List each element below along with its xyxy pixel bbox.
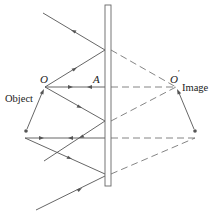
image-base-dot	[193, 129, 197, 133]
ray-o-down-incident	[45, 87, 105, 121]
label-o-prime-mark: ′	[178, 69, 180, 78]
ray-diagram: O A O ′ Object Image	[0, 0, 212, 212]
label-a: A	[92, 73, 100, 85]
label-object: Object	[5, 93, 33, 104]
virtual-ray-bottom	[111, 138, 195, 174]
virtual-ray-top	[111, 50, 176, 87]
arrow-up-icon	[177, 89, 181, 95]
arrow-icon	[72, 68, 78, 72]
label-o-prime: O	[170, 73, 178, 85]
diagram-svg: O A O ′ Object Image	[0, 0, 212, 212]
arrow-icon	[68, 85, 73, 89]
arrow-icon	[68, 136, 73, 140]
label-o: O	[40, 73, 48, 85]
image-arrow	[177, 89, 197, 133]
ray-o-down-reflected	[44, 121, 105, 161]
plane-mirror	[105, 5, 111, 186]
arrow-up-icon	[40, 89, 44, 95]
ray-b-down-reflected	[36, 176, 105, 210]
arrow-icon	[67, 156, 73, 159]
object-base-dot	[24, 129, 28, 133]
virtual-ray-mid	[111, 87, 176, 121]
arrow-icon	[87, 85, 92, 89]
label-image: Image	[182, 82, 209, 93]
ray-arrowheads	[39, 30, 92, 192]
ray-b-down-incident	[25, 138, 105, 174]
real-rays	[25, 13, 105, 210]
virtual-rays	[111, 50, 195, 174]
arrow-icon	[39, 136, 44, 140]
